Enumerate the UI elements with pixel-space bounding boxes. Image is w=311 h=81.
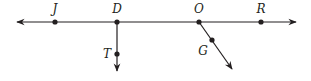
point-t xyxy=(114,51,119,56)
diagram-svg: J D O R T G xyxy=(0,0,311,81)
point-d xyxy=(114,19,119,24)
label-g: G xyxy=(198,44,208,58)
point-r xyxy=(258,19,263,24)
label-o: O xyxy=(194,2,204,16)
geometry-diagram: J D O R T G xyxy=(0,0,311,81)
point-j xyxy=(52,19,57,24)
label-d: D xyxy=(111,2,122,16)
label-r: R xyxy=(255,2,265,16)
label-j: J xyxy=(50,2,59,16)
point-o xyxy=(196,19,201,24)
point-g xyxy=(209,37,214,42)
label-t: T xyxy=(103,47,112,61)
